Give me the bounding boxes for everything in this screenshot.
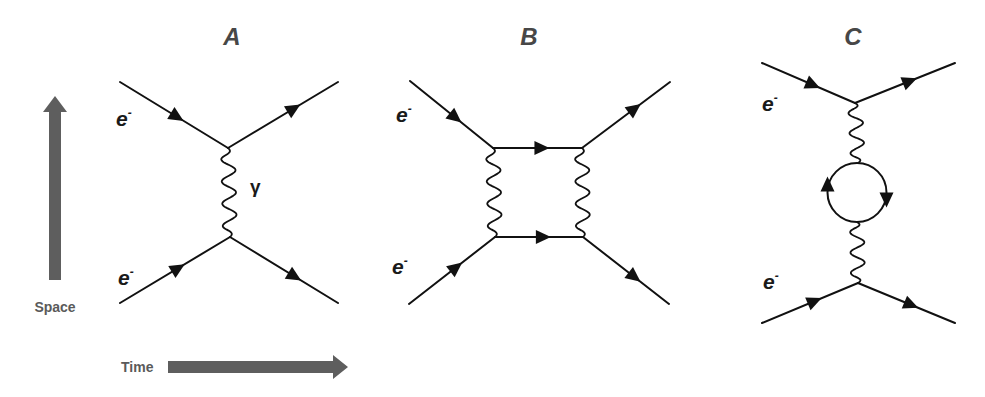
b-electron-label-bottom: e- — [392, 254, 408, 278]
panel-a-title: A — [222, 23, 240, 50]
arrowhead-icon — [284, 105, 300, 119]
arrowhead-icon — [624, 267, 640, 282]
c-electron-label-top: e- — [762, 91, 778, 115]
b-electron-label-top: e- — [396, 102, 412, 126]
arrowhead-icon — [168, 264, 184, 278]
arrowhead-icon — [167, 107, 183, 121]
panel-c-title: C — [844, 23, 862, 50]
loop-arrowhead-up-icon — [821, 177, 835, 192]
a-outgoing-bottom-electron — [230, 237, 338, 303]
panel-b: B e- e- — [392, 23, 670, 304]
c-arrowheads — [803, 76, 918, 311]
b-photon-propagator-right — [575, 148, 590, 237]
a-outgoing-top-electron — [228, 82, 338, 148]
time-axis: Time — [121, 355, 348, 379]
b-photon-propagator-left — [486, 148, 501, 237]
space-arrow-icon — [43, 96, 67, 280]
c-electron-label-bottom: e- — [763, 269, 779, 293]
b-arrowheads — [445, 104, 640, 282]
arrowhead-icon — [285, 267, 301, 281]
arrowhead-icon — [534, 141, 549, 155]
c-photon-propagator-lower — [850, 222, 865, 283]
arrowhead-icon — [446, 263, 462, 278]
space-label: Space — [34, 299, 75, 315]
panel-a: A e- e- γ — [116, 23, 338, 303]
time-arrow-icon — [168, 355, 348, 379]
loop-arrowhead-down-icon — [880, 193, 894, 208]
arrowhead-icon — [445, 108, 461, 123]
panel-c: C e- e- — [762, 23, 955, 323]
a-electron-label-top: e- — [116, 106, 132, 130]
panel-b-title: B — [520, 23, 537, 50]
b-outgoing-bottom-electron — [583, 237, 669, 304]
arrowhead-icon — [536, 230, 551, 244]
b-outgoing-top-electron — [582, 82, 670, 148]
feynman-figure: Space Time A e- e- γ B — [0, 0, 985, 397]
a-arrowheads — [167, 105, 301, 281]
space-axis: Space — [34, 96, 75, 315]
arrowhead-icon — [625, 104, 641, 119]
a-photon-label: γ — [250, 176, 261, 197]
c-fermion-loop — [828, 163, 887, 222]
a-electron-label-bottom: e- — [118, 265, 134, 289]
c-photon-propagator-upper — [849, 103, 864, 163]
time-label: Time — [121, 359, 154, 375]
a-photon-propagator — [221, 148, 236, 237]
